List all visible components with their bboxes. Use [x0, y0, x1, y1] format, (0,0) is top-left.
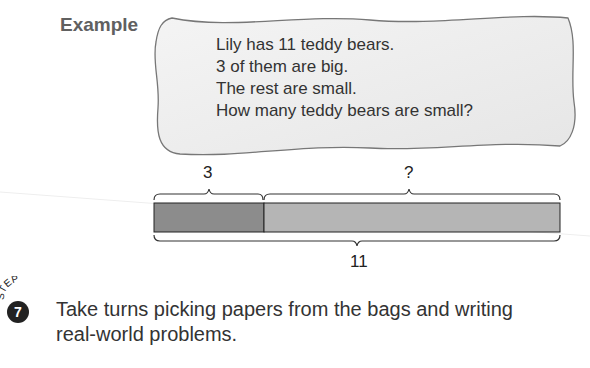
step-line: real-world problems.	[56, 322, 513, 347]
step-number: 7	[14, 304, 22, 320]
whole-label: 11	[350, 252, 368, 272]
brace-known	[154, 189, 263, 200]
bar-unknown	[264, 203, 560, 232]
bar-known	[154, 203, 264, 232]
brace-whole	[154, 235, 560, 246]
step-line: Take turns picking papers from the bags …	[56, 297, 513, 322]
step-instructions: Take turns picking papers from the bags …	[56, 297, 513, 347]
svg-text:STEP: STEP	[0, 276, 20, 300]
brace-unknown	[264, 189, 560, 200]
step-badge-icon: STEP 7	[0, 276, 40, 324]
unknown-part-label: ?	[404, 163, 413, 183]
known-part-label: 3	[203, 163, 212, 183]
